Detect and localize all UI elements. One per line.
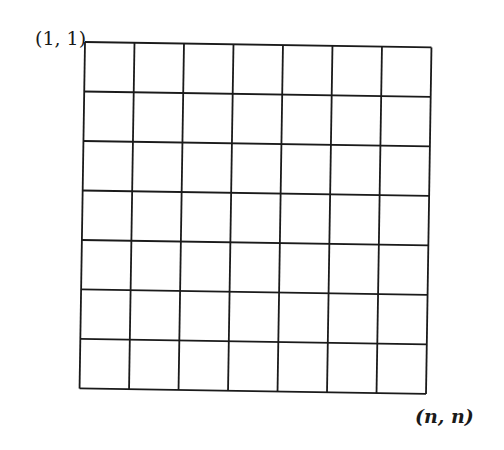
grid-column-line — [377, 47, 382, 393]
square-grid — [80, 42, 432, 394]
grid-row-line — [80, 339, 426, 344]
grid-row-line — [84, 91, 430, 96]
grid-row-line — [81, 289, 427, 294]
grid-row-line — [80, 388, 426, 393]
bottom-right-corner-label: (n, n) — [415, 407, 474, 426]
grid-row-line — [83, 141, 429, 146]
grid-row-line — [83, 190, 429, 195]
grid-column-line — [228, 44, 233, 390]
grid-row-line — [85, 42, 431, 47]
grid-column-line — [179, 44, 184, 390]
grid-row-line — [82, 240, 428, 245]
grid-column-line — [80, 42, 85, 388]
grid-column-line — [278, 45, 283, 391]
grid-column-line — [129, 43, 134, 389]
grid-diagram — [0, 0, 504, 450]
top-left-corner-label: (1, 1) — [35, 29, 86, 48]
grid-column-line — [327, 46, 332, 392]
grid-column-line — [426, 47, 431, 393]
